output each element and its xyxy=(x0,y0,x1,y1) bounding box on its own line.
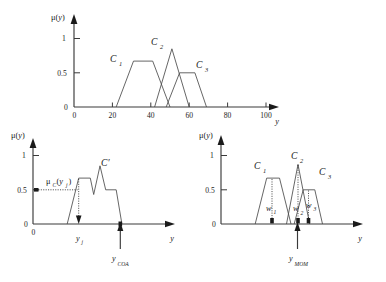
top-label-c2: C 2 xyxy=(151,36,164,50)
bl-ycoa-arrowhead xyxy=(117,222,123,231)
svg-text:C: C xyxy=(319,166,326,177)
svg-text:y: y xyxy=(288,254,293,263)
br-label-ymom: y MOM xyxy=(288,254,308,267)
top-x-axis xyxy=(74,104,279,111)
top-curve-c2 xyxy=(155,49,190,107)
svg-text:1: 1 xyxy=(263,167,266,174)
figure-canvas: μ(y) 1 0.5 0 0 20 40 60 80 100 y C 1 xyxy=(0,0,386,282)
br-label-c3: C 3 xyxy=(319,166,331,180)
svg-text:C: C xyxy=(110,53,117,64)
br-y-ticks xyxy=(221,156,227,190)
bl-ytick-1: 1 xyxy=(22,151,26,160)
svg-text:COA: COA xyxy=(118,261,130,267)
br-ytick-1: 1 xyxy=(210,151,214,160)
bl-x-axis-label: y xyxy=(169,234,174,243)
br-label-w1: w 1 xyxy=(266,204,277,215)
chart-bottom-right: μ(y) 1 0.5 0 y C 1 C 2 C 3 xyxy=(199,131,363,267)
top-xtick-40: 40 xyxy=(147,111,155,120)
bl-x-axis xyxy=(33,221,175,228)
top-x-axis-label: y xyxy=(274,117,279,126)
chart-top: μ(y) 1 0.5 0 0 20 40 60 80 100 y C 1 xyxy=(51,13,279,126)
svg-text:C: C xyxy=(151,36,158,47)
top-curve-c1 xyxy=(116,61,170,107)
top-y-axis xyxy=(71,14,78,107)
svg-text:3: 3 xyxy=(313,206,317,212)
bl-annotation-mu-c-yj: μ C (y j ) xyxy=(46,177,72,188)
top-curve-c3 xyxy=(166,73,206,107)
svg-text:): ) xyxy=(69,177,72,186)
svg-text:C: C xyxy=(291,150,298,161)
svg-text:y: y xyxy=(111,254,116,263)
br-ytick-05: 0.5 xyxy=(205,186,215,195)
svg-text:2: 2 xyxy=(160,43,164,50)
top-label-c1: C 1 xyxy=(110,53,122,67)
svg-text:2: 2 xyxy=(300,157,304,164)
bl-curve-c-prime xyxy=(67,166,122,224)
svg-text:1: 1 xyxy=(274,209,277,215)
top-label-c3: C 3 xyxy=(196,59,208,73)
defuzzification-figure: μ(y) 1 0.5 0 0 20 40 60 80 100 y C 1 xyxy=(0,0,386,282)
br-curve-c1 xyxy=(255,178,291,224)
top-xtick-0: 0 xyxy=(73,111,77,120)
top-y-ticks xyxy=(74,39,80,73)
br-label-c1: C 1 xyxy=(254,160,266,174)
bl-origin-label: 0 xyxy=(32,228,36,237)
bl-ytick-0: 0 xyxy=(24,220,28,229)
svg-text:y: y xyxy=(75,234,80,243)
br-ytick-0: 0 xyxy=(212,220,216,229)
br-marker-w1 xyxy=(270,218,274,223)
svg-text:3: 3 xyxy=(204,66,208,73)
br-marker-w3 xyxy=(307,218,311,223)
svg-text:2: 2 xyxy=(301,210,304,216)
svg-text:MOM: MOM xyxy=(294,261,309,267)
top-xtick-20: 20 xyxy=(109,111,117,120)
top-ytick-1: 1 xyxy=(62,34,66,43)
svg-text:w: w xyxy=(293,204,299,213)
br-label-c2: C 2 xyxy=(291,150,304,164)
bl-label-ycoa: y COA xyxy=(111,254,129,267)
top-y-axis-label: μ(y) xyxy=(51,13,65,22)
svg-text:μ: μ xyxy=(46,177,51,186)
bl-label-yj: y j xyxy=(75,234,84,245)
chart-bottom-left: μ(y) 1 0.5 0 0 y μ C (y j xyxy=(11,131,175,267)
top-xtick-80: 80 xyxy=(224,111,232,120)
svg-text:C: C xyxy=(196,59,203,70)
top-xtick-100: 100 xyxy=(260,111,272,120)
svg-text:j: j xyxy=(81,239,84,245)
bl-label-c-prime: C′ xyxy=(101,157,110,168)
svg-text:w: w xyxy=(306,201,312,210)
bl-level-marker xyxy=(34,188,39,192)
top-xtick-60: 60 xyxy=(185,111,193,120)
svg-text:(y: (y xyxy=(57,177,64,186)
svg-text:w: w xyxy=(266,204,272,213)
br-label-w3: w 3 xyxy=(306,201,317,212)
svg-text:C: C xyxy=(254,160,261,171)
top-ytick-05: 0.5 xyxy=(57,69,67,78)
bl-ytick-05: 0.5 xyxy=(17,186,27,195)
bl-y-ticks xyxy=(33,156,39,190)
br-marker-w2 xyxy=(296,218,300,223)
br-x-axis xyxy=(221,221,363,228)
br-x-axis-label: y xyxy=(357,234,362,243)
bl-yj-arrowhead xyxy=(76,216,82,225)
svg-text:3: 3 xyxy=(327,173,331,180)
bl-y-axis xyxy=(30,138,37,224)
svg-text:1: 1 xyxy=(119,60,122,67)
br-y-axis xyxy=(218,135,225,224)
br-y-axis-label: μ(y) xyxy=(199,131,213,140)
bl-y-axis-label: μ(y) xyxy=(11,131,25,140)
top-ytick-0: 0 xyxy=(64,103,68,112)
